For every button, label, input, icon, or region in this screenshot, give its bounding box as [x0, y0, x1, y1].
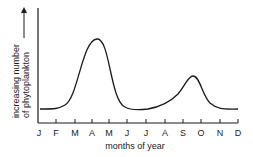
- svg-text:M: M: [105, 128, 113, 138]
- svg-text:M: M: [71, 128, 79, 138]
- phytoplankton-curve: [40, 39, 238, 110]
- svg-text:A: A: [162, 128, 168, 138]
- svg-text:J: J: [144, 128, 149, 138]
- svg-text:A: A: [89, 128, 95, 138]
- svg-text:J: J: [37, 128, 42, 138]
- x-tick-labels: J F M A M J J A S O N D: [37, 128, 242, 138]
- x-axis-title: months of year: [105, 141, 165, 151]
- svg-text:J: J: [125, 128, 130, 138]
- svg-text:of phytoplankton: of phytoplankton: [21, 52, 31, 118]
- y-axis-title: increasing number of phytoplankton: [11, 10, 31, 118]
- svg-text:increasing number: increasing number: [11, 44, 21, 118]
- svg-text:S: S: [180, 128, 186, 138]
- svg-text:F: F: [53, 128, 59, 138]
- svg-text:D: D: [235, 128, 242, 138]
- svg-text:O: O: [197, 128, 204, 138]
- svg-text:N: N: [217, 128, 224, 138]
- phytoplankton-chart: J F M A M J J A S O N D months of year i…: [0, 0, 253, 157]
